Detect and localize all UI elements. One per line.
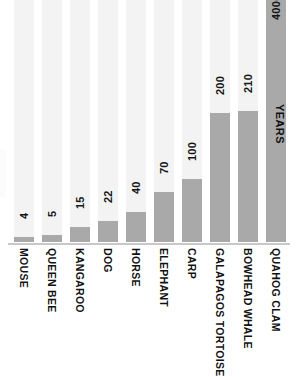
- bar-value-carp: 100: [186, 142, 198, 161]
- bar-queen-bee[interactable]: [42, 235, 62, 242]
- bar-value-bowhead-whale: 210: [242, 74, 254, 93]
- bar-track: [98, 0, 118, 242]
- bar-carp[interactable]: [182, 179, 202, 242]
- plot-area: 4 5 15 22 40 70: [0, 0, 296, 244]
- category-label-kangaroo: KANGAROO: [70, 246, 90, 374]
- category-label-horse: HORSE: [126, 246, 146, 374]
- bar-value-queen-bee: 5: [46, 211, 58, 217]
- category-axis: MOUSE QUEEN BEE KANGAROO DOG HORSE ELEPH…: [0, 246, 296, 374]
- category-label-mouse: MOUSE: [14, 246, 34, 374]
- bar-value-galapagos-tortoise: 200: [214, 76, 226, 95]
- bar-horse[interactable]: [126, 212, 146, 242]
- category-label-text: BOWHEAD WHALE: [242, 248, 254, 349]
- category-label-text: MOUSE: [18, 248, 30, 288]
- bar-track: [14, 0, 34, 242]
- category-label-elephant: ELEPHANT: [154, 246, 174, 374]
- category-label-text: KANGAROO: [74, 248, 86, 313]
- category-label-text: CARP: [186, 248, 198, 279]
- category-label-galapagos-tortoise: GALAPAGOS TORTOISE: [210, 246, 230, 374]
- category-label-bowhead-whale: BOWHEAD WHALE: [238, 246, 258, 374]
- bar-mouse[interactable]: [14, 237, 34, 242]
- bar-kangaroo[interactable]: [70, 227, 90, 242]
- category-label-text: ELEPHANT: [158, 248, 170, 307]
- category-label-text: GALAPAGOS TORTOISE: [214, 248, 226, 377]
- bar-dog[interactable]: [98, 221, 118, 242]
- bar-bowhead-whale[interactable]: [238, 111, 258, 242]
- category-label-text: QUAHOG CLAM: [270, 248, 282, 332]
- category-label-text: HORSE: [130, 248, 142, 287]
- bar-elephant[interactable]: [154, 192, 174, 242]
- bar-value-kangaroo: 15: [74, 196, 86, 209]
- category-label-queen-bee: QUEEN BEE: [42, 246, 62, 374]
- category-label-text: DOG: [102, 248, 114, 273]
- bar-track: [126, 0, 146, 242]
- bar-value-horse: 40: [130, 181, 142, 194]
- category-label-dog: DOG: [98, 246, 118, 374]
- bar-value-quahog-clam: 400+: [270, 0, 282, 20]
- bar-galapagos-tortoise[interactable]: [210, 113, 230, 242]
- category-label-text: QUEEN BEE: [46, 248, 58, 313]
- axis-baseline: [8, 243, 290, 245]
- bar-value-dog: 22: [102, 190, 114, 203]
- category-label-quahog-clam: QUAHOG CLAM: [266, 246, 286, 374]
- bar-track: [42, 0, 62, 242]
- value-axis-title: YEARS: [272, 104, 288, 164]
- category-label-carp: CARP: [182, 246, 202, 374]
- bar-value-elephant: 70: [158, 161, 170, 174]
- value-axis-title-text: YEARS: [274, 104, 286, 144]
- bar-value-mouse: 4: [18, 213, 30, 219]
